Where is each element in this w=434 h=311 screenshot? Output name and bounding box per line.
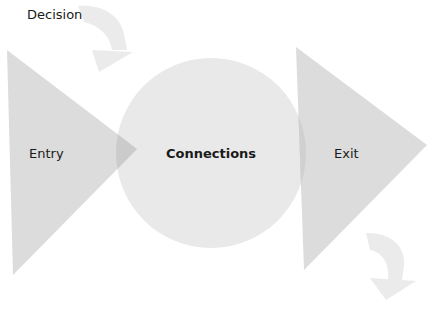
entry-label: Entry xyxy=(29,147,64,160)
decision-curved-arrow-icon xyxy=(78,6,133,72)
exit-label: Exit xyxy=(334,147,359,160)
decision-label: Decision xyxy=(27,8,82,21)
exit-triangle xyxy=(296,47,427,270)
return-curved-arrow-icon xyxy=(366,233,416,300)
connections-label: Connections xyxy=(166,147,256,160)
